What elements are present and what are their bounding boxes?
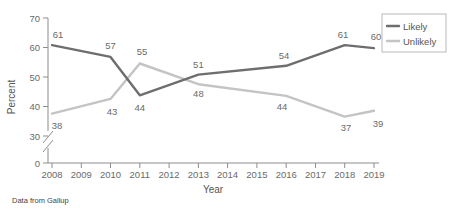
y-tick-label-40: 40 [29, 101, 40, 112]
series-line-likely [52, 45, 374, 95]
data-label-unlikely-2018: 37 [341, 122, 352, 133]
x-tick-label-2019: 2019 [363, 169, 384, 180]
data-label-unlikely-2010: 43 [107, 106, 118, 117]
legend-label-unlikely[interactable]: Unlikely [403, 36, 437, 47]
series-line-unlikely [52, 64, 374, 117]
legend-label-likely[interactable]: Likely [403, 21, 428, 32]
x-tick-label-2011: 2011 [130, 169, 150, 180]
legend: Likely Unlikely [382, 14, 446, 52]
x-tick-label-2012: 2012 [159, 169, 180, 180]
x-tick-label-2017: 2017 [305, 169, 326, 180]
data-label-likely-2018: 61 [338, 29, 349, 40]
y-tick-label-30: 30 [29, 131, 40, 142]
line-chart: Percent 70 60 50 40 30 0 [0, 0, 451, 209]
data-label-unlikely-2016: 44 [277, 101, 288, 112]
data-label-unlikely-2013: 48 [193, 88, 204, 99]
data-label-unlikely-2011: 55 [137, 46, 148, 57]
x-tick-label-2016: 2016 [276, 169, 297, 180]
x-tick-label-2009: 2009 [71, 169, 92, 180]
x-tick-label-2010: 2010 [100, 169, 121, 180]
data-label-likely-2019: 60 [371, 31, 382, 42]
data-label-likely-2013: 51 [193, 59, 204, 70]
y-tick-label-50: 50 [29, 72, 40, 83]
data-label-likely-2008: 61 [53, 29, 64, 40]
x-tick-label-2018: 2018 [334, 169, 355, 180]
data-label-likely-2010: 57 [105, 40, 116, 51]
y-tick-label-0: 0 [35, 158, 40, 169]
data-label-unlikely-2019: 39 [373, 118, 384, 129]
source-caption: Data from Gallup [12, 196, 69, 205]
data-label-likely-2016: 54 [279, 50, 290, 61]
data-label-likely-2011: 44 [135, 102, 146, 113]
x-tick-label-2014: 2014 [217, 169, 238, 180]
y-tick-label-70: 70 [29, 13, 40, 24]
x-tick-label-2015: 2015 [246, 169, 267, 180]
y-axis-title: Percent [6, 80, 17, 115]
y-tick-label-60: 60 [29, 42, 40, 53]
x-axis-title: Year [203, 184, 224, 195]
x-tick-label-2008: 2008 [41, 169, 62, 180]
data-label-unlikely-2008: 38 [52, 120, 63, 131]
x-tick-label-2013: 2013 [188, 169, 209, 180]
